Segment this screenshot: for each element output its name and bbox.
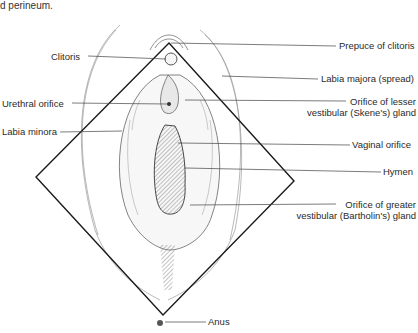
vaginal-orifice-shape [154,125,185,214]
leader-lines [60,43,381,322]
label-lesser-vestibular-gland: Orifice of lesser vestibular (Skene's) g… [307,96,416,118]
label-clitoris: Clitoris [51,51,80,62]
label-lesser-vestibular-line1: Orifice of lesser [307,96,416,107]
label-anus: Anus [208,316,230,327]
label-labia-majora: Labia majora (spread) [321,73,414,84]
label-greater-vestibular-gland: Orifice of greater vestibular (Bartholin… [296,199,416,221]
label-vaginal-orifice: Vaginal orifice [352,139,411,150]
anus-shape [157,320,163,326]
label-greater-vestibular-line2: vestibular (Bartholin's) gland [296,210,416,221]
label-labia-minora: Labia minora [2,126,57,137]
label-greater-vestibular-line1: Orifice of greater [296,199,416,210]
label-lesser-vestibular-line2: vestibular (Skene's) gland [307,107,416,118]
perineum-sketch [160,245,175,290]
label-prepuce-of-clitoris: Prepuce of clitoris [339,40,415,51]
label-urethral-orifice: Urethral orifice [2,98,64,109]
label-hymen: Hymen [383,166,413,177]
clitoris-shape [165,53,177,65]
